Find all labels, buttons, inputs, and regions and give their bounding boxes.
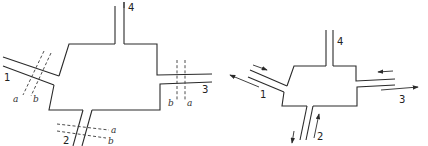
port-1-incident-arrow-icon: [253, 65, 267, 70]
right-junction-diagram: 4 1 2: [230, 30, 418, 143]
right-port-2-label: 2: [317, 131, 323, 142]
port-1-reflected-arrow-icon: [230, 75, 259, 87]
right-port-2-wave-arrows: [292, 114, 319, 143]
right-port-1-guide: [248, 70, 287, 92]
left-port-2-plane-b-label: b: [108, 136, 114, 146]
right-port-2-guide: [300, 106, 313, 140]
left-port-3-label: 3: [202, 84, 208, 95]
right-port-3-wave-arrows: [378, 71, 418, 90]
left-port-1-label: 1: [4, 72, 10, 83]
right-port-4-label: 4: [337, 36, 343, 47]
left-junction-diagram: 4 1 a b 2 a b: [3, 2, 212, 146]
left-port-4-guide: [115, 2, 124, 44]
port-3-reflected-arrow-icon: [381, 87, 418, 90]
left-port-1-plane-a-label: a: [13, 94, 18, 104]
left-port-3-plane-b-label: b: [168, 98, 174, 108]
left-port-3-reference-planes: [177, 60, 185, 100]
right-port-1-wave-arrows: [230, 65, 267, 87]
left-port-1-plane-b-label: b: [33, 94, 39, 104]
figure-canvas: 4 1 a b 2 a b: [0, 0, 428, 146]
left-port-2-plane-a-label: a: [111, 125, 116, 135]
left-port-4-label: 4: [128, 2, 134, 13]
right-port-4-guide: [326, 30, 333, 66]
right-port-3-label: 3: [399, 94, 405, 105]
left-port-2-label: 2: [63, 135, 69, 146]
left-port-1-guide: [3, 57, 59, 85]
left-port-1-reference-planes: [23, 51, 51, 96]
left-port-3-plane-a-label: a: [187, 98, 192, 108]
port-3-incident-arrow-icon: [378, 71, 393, 72]
port-2-reflected-arrow-icon: [292, 131, 294, 143]
right-port-1-label: 1: [260, 89, 266, 100]
